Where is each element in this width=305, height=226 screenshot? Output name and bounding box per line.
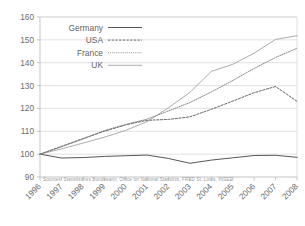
source-note-text: Sources: Statistisches Bundesamt, Office…: [43, 177, 233, 182]
gridlines: [40, 17, 297, 154]
x-axis-tick-label: 2003: [173, 181, 193, 201]
x-axis-tick-label: 1999: [87, 181, 107, 201]
y-axis-tick-label: 160: [20, 12, 34, 22]
legend-label-usa: USA: [86, 35, 104, 45]
legend-label-france: France: [77, 48, 103, 58]
source-note: Sources: Statistisches Bundesamt, Office…: [43, 177, 233, 182]
legend: GermanyUSAFranceUK: [69, 23, 142, 71]
x-axis-tick-label: 2002: [151, 181, 171, 201]
y-axis-tick-label: 100: [20, 149, 34, 159]
x-axis-tick-label: 2004: [194, 181, 214, 201]
line-chart: 90100110120130140150160 1996199719981999…: [0, 0, 305, 226]
x-axis-tick-label: 1997: [44, 181, 64, 201]
y-axis-tick-label: 120: [20, 103, 34, 113]
y-axis-tick-label: 150: [20, 35, 34, 45]
x-axis-tick-labels: 1996199719981999200020012002200320042005…: [23, 181, 300, 201]
y-axis-tick-label: 110: [21, 126, 35, 136]
y-axis-tick-label: 140: [20, 58, 34, 68]
x-axis-tick-label: 2005: [216, 181, 236, 201]
y-axis-tick-marks: [37, 17, 40, 177]
legend-label-uk: UK: [91, 60, 103, 70]
x-axis-tick-label: 1996: [23, 181, 43, 201]
chart-canvas: 90100110120130140150160 1996199719981999…: [0, 0, 305, 226]
series-line-france: [40, 48, 297, 154]
x-axis-tick-label: 2006: [237, 181, 257, 201]
series-line-germany: [40, 154, 297, 163]
x-axis-tick-label: 1998: [66, 181, 86, 201]
x-axis-tick-label: 2007: [258, 181, 278, 201]
x-axis-tick-label: 2001: [130, 181, 150, 201]
y-axis-tick-label: 130: [20, 81, 34, 91]
plot-border: [40, 17, 297, 177]
legend-label-germany: Germany: [69, 23, 104, 33]
x-axis-tick-label: 2000: [108, 181, 128, 201]
x-axis-tick-label: 2008: [280, 181, 300, 201]
y-axis-tick-labels: 90100110120130140150160: [20, 12, 34, 182]
y-axis-tick-label: 90: [25, 172, 35, 182]
